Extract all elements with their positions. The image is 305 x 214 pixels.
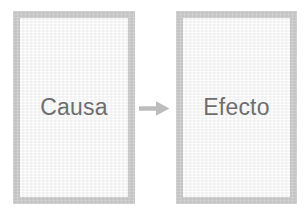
- effect-box-label: Efecto: [203, 96, 269, 119]
- cause-box[interactable]: Causa: [13, 11, 135, 204]
- cause-box-label: Causa: [40, 96, 107, 119]
- block-arrow-right-icon: [139, 98, 170, 119]
- arrow-shape: [139, 101, 170, 116]
- arrow-glyph: [139, 98, 170, 119]
- effect-box[interactable]: Efecto: [176, 11, 297, 204]
- cause-effect-diagram: Causa Efecto: [0, 0, 305, 214]
